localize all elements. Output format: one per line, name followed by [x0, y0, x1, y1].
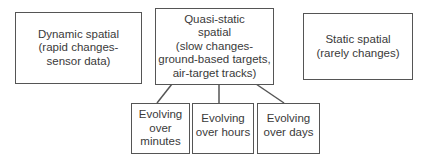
edge-quasi-days — [256, 84, 284, 103]
node-label: Evolving over hours — [196, 112, 250, 139]
node-quasi-static-spatial: Quasi-static spatial (slow changes- grou… — [155, 8, 274, 85]
node-evolving-hours: Evolving over hours — [192, 103, 254, 154]
node-evolving-minutes: Evolving over minutes — [131, 103, 190, 154]
node-label: Evolving over minutes — [139, 108, 182, 149]
node-static-spatial: Static spatial (rarely changes) — [303, 13, 413, 80]
node-label: Evolving over days — [264, 112, 314, 139]
node-label: Quasi-static spatial (slow changes- grou… — [158, 13, 271, 81]
node-dynamic-spatial: Dynamic spatial (rapid changes- sensor d… — [15, 12, 142, 84]
node-evolving-days: Evolving over days — [257, 103, 320, 154]
node-label: Static spatial (rarely changes) — [316, 33, 399, 60]
edge-quasi-minutes — [157, 84, 172, 103]
node-label: Dynamic spatial (rapid changes- sensor d… — [38, 28, 119, 69]
